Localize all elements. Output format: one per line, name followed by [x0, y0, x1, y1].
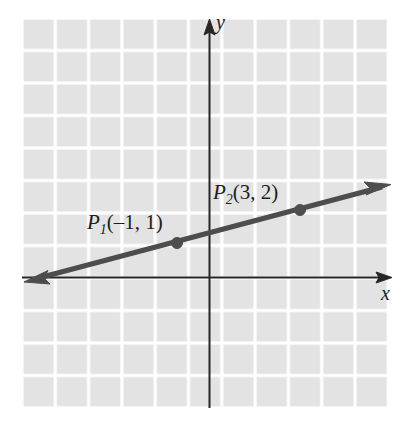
point-label-p2-base: P	[213, 180, 226, 204]
point-label-p1-subscript: 1	[100, 222, 107, 237]
coordinate-plane-figure: P1(–1, 1) P2(3, 2) y x	[0, 0, 412, 430]
point-label-p1: P1(–1, 1)	[87, 212, 163, 237]
point-label-p1-coords: (–1, 1)	[107, 210, 163, 234]
point-label-p2-subscript: 2	[226, 192, 233, 207]
plotted-line-group	[0, 0, 412, 430]
data-point-p1	[172, 238, 183, 249]
y-axis-label: y	[216, 12, 225, 32]
plotted-line	[33, 187, 382, 280]
point-label-p2-coords: (3, 2)	[233, 180, 279, 204]
x-axis-label: x	[381, 283, 390, 303]
point-label-p1-base: P	[87, 210, 100, 234]
point-label-p2: P2(3, 2)	[213, 182, 278, 207]
data-point-p2	[295, 205, 306, 216]
